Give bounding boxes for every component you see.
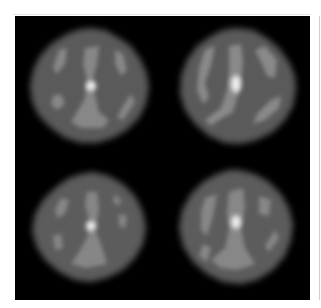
scan-panel — [15, 16, 310, 300]
scan-top-right — [180, 28, 296, 144]
frame-right-line — [319, 16, 320, 300]
scan-bottom-left — [32, 172, 146, 282]
scan-bottom-right — [179, 170, 293, 284]
frame-top-edge — [13, 14, 311, 15]
scan-grid-image — [15, 16, 310, 300]
scan-top-left — [30, 28, 149, 143]
